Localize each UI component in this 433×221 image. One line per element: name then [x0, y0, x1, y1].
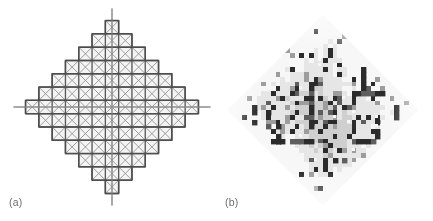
- panel-a-label: (a): [9, 196, 22, 208]
- panel-b-heatmap: (b): [216, 0, 433, 221]
- mesh-diagram-canvas: [0, 0, 216, 221]
- panel-a-mesh: (a): [0, 0, 216, 221]
- figure-container: (a) (b): [0, 0, 433, 221]
- panel-b-canvas-holder: [216, 0, 433, 221]
- panel-a-canvas-holder: [0, 0, 216, 221]
- heatmap-diagram-canvas: [216, 0, 433, 221]
- panel-b-label: (b): [225, 196, 238, 208]
